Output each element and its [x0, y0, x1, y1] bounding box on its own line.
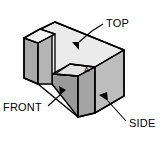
face-front-left-leg	[24, 38, 38, 84]
label-top: TOP	[106, 17, 129, 29]
label-side: SIDE	[129, 117, 155, 129]
face-inner-wall	[52, 74, 78, 117]
label-front: FRONT	[3, 101, 42, 113]
isometric-block-drawing: TOP FRONT SIDE A	[0, 0, 163, 151]
side-leader-line	[108, 101, 126, 121]
figure-canvas: TOP FRONT SIDE A	[0, 0, 163, 151]
top-leader-line	[92, 24, 103, 31]
label-surface-a: A	[84, 65, 90, 74]
